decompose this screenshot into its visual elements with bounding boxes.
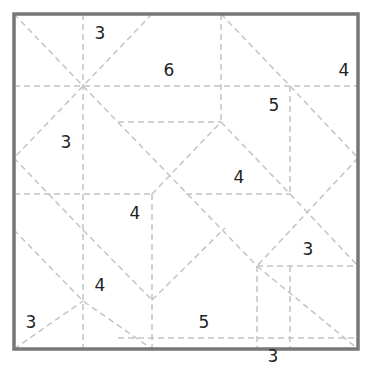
dashed-lines — [14, 14, 358, 349]
clue-number: 4 — [339, 62, 350, 79]
clue-number: 5 — [269, 97, 280, 114]
clue-number: 4 — [95, 277, 106, 294]
clue-number: 3 — [303, 241, 314, 258]
clue-number: 3 — [95, 25, 106, 42]
clue-number: 3 — [268, 348, 279, 365]
clue-number: 4 — [130, 205, 141, 222]
clue-number: 3 — [61, 134, 72, 151]
clue-number: 3 — [26, 314, 37, 331]
puzzle-board — [0, 0, 381, 389]
clue-number: 6 — [164, 62, 175, 79]
board-border — [14, 14, 358, 349]
clue-number: 4 — [234, 169, 245, 186]
clue-number: 5 — [199, 314, 210, 331]
